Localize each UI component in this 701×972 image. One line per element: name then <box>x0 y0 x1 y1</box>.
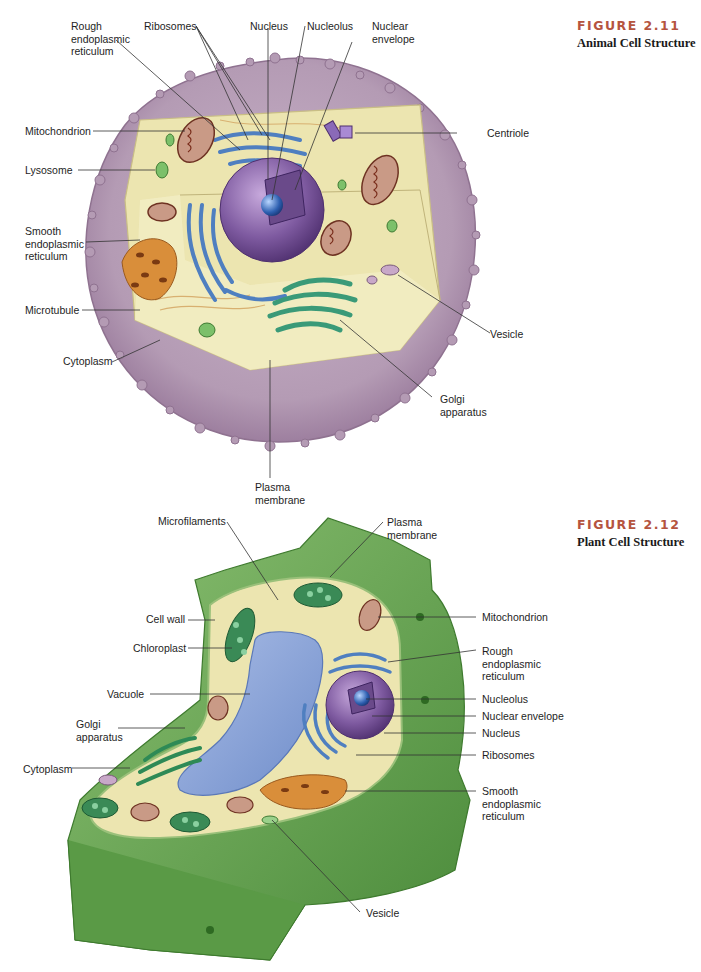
label-plant-rough-er: Rough endoplasmic reticulum <box>482 645 541 683</box>
label-animal-smooth-er: Smooth endoplasmic reticulum <box>25 225 84 263</box>
label-animal-rough-er: Rough endoplasmic reticulum <box>71 20 130 58</box>
label-plant-mitochondrion: Mitochondrion <box>482 611 548 624</box>
label-animal-nucleolus: Nucleolus <box>307 20 353 33</box>
plant-nucleus <box>326 671 394 739</box>
figure-2-11-title: Animal Cell Structure <box>577 36 696 51</box>
label-animal-nucleus: Nucleus <box>250 20 288 33</box>
label-plant-smooth-er: Smooth endoplasmic reticulum <box>482 785 541 823</box>
figure-2-12-title: Plant Cell Structure <box>577 535 684 550</box>
label-plant-nucleus: Nucleus <box>482 727 520 740</box>
label-plant-nucleolus: Nucleolus <box>482 693 528 706</box>
label-plant-cytoplasm: Cytoplasm <box>23 763 73 776</box>
label-animal-plasma-membrane: Plasma membrane <box>255 481 305 506</box>
label-plant-ribosomes: Ribosomes <box>482 749 535 762</box>
label-animal-mitochondrion: Mitochondrion <box>25 125 91 138</box>
label-plant-microfilaments: Microfilaments <box>158 515 226 528</box>
label-animal-golgi: Golgi apparatus <box>440 393 487 418</box>
label-plant-plasma-membrane: Plasma membrane <box>387 516 437 541</box>
label-plant-cell-wall: Cell wall <box>146 613 185 626</box>
label-plant-golgi: Golgi apparatus <box>76 718 123 743</box>
label-plant-vacuole: Vacuole <box>107 688 144 701</box>
label-animal-nuclear-envelope: Nuclear envelope <box>372 20 415 45</box>
label-animal-ribosomes: Ribosomes <box>144 20 197 33</box>
label-animal-microtubule: Microtubule <box>25 304 79 317</box>
textbook-page: FIGURE 2.11 Animal Cell Structure Rough … <box>0 0 701 972</box>
label-animal-cytoplasm: Cytoplasm <box>63 355 113 368</box>
label-plant-vesicle: Vesicle <box>366 907 399 920</box>
figure-2-11-number: FIGURE 2.11 <box>577 18 680 33</box>
label-plant-nuclear-envelope: Nuclear envelope <box>482 710 564 723</box>
label-animal-centriole: Centriole <box>487 127 529 140</box>
label-plant-chloroplast: Chloroplast <box>133 642 186 655</box>
plant-cell-illustration <box>0 0 701 972</box>
label-animal-lysosome: Lysosome <box>25 164 72 177</box>
figure-2-12-number: FIGURE 2.12 <box>577 517 680 532</box>
label-animal-vesicle: Vesicle <box>490 328 523 341</box>
